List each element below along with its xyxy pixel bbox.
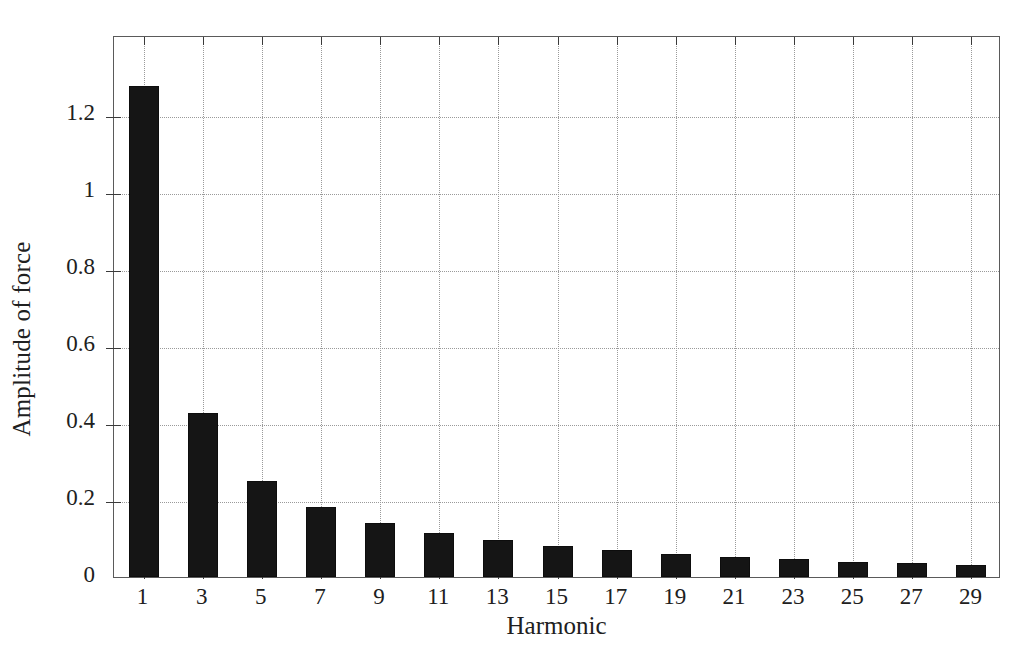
x-tick-label: 19 bbox=[663, 584, 686, 610]
bar bbox=[779, 559, 809, 577]
bar-layer bbox=[114, 37, 999, 577]
bar bbox=[543, 546, 573, 577]
x-tick-label: 1 bbox=[137, 584, 149, 610]
x-tick-label: 3 bbox=[196, 584, 208, 610]
x-tick-label: 23 bbox=[782, 584, 805, 610]
y-tick-mark bbox=[106, 117, 114, 118]
x-tick-label: 17 bbox=[604, 584, 627, 610]
y-axis-title-text: Amplitude of force bbox=[8, 241, 36, 436]
bar bbox=[365, 523, 395, 577]
bar bbox=[838, 562, 868, 577]
y-tick-label: 0.4 bbox=[0, 408, 95, 434]
plot-area bbox=[113, 36, 1000, 578]
bar bbox=[247, 481, 277, 577]
y-tick-mark bbox=[106, 348, 114, 349]
bar bbox=[306, 507, 336, 577]
x-axis-title: Harmonic bbox=[113, 612, 1000, 640]
y-tick-mark bbox=[106, 502, 114, 503]
x-tick-label: 29 bbox=[959, 584, 982, 610]
y-tick-mark bbox=[106, 425, 114, 426]
x-axis-title-text: Harmonic bbox=[507, 612, 607, 639]
y-tick-label: 1.2 bbox=[0, 100, 95, 126]
y-tick-label: 0.6 bbox=[0, 331, 95, 357]
x-tick-label: 7 bbox=[314, 584, 326, 610]
x-tick-label: 15 bbox=[545, 584, 568, 610]
y-tick-mark bbox=[106, 271, 114, 272]
x-tick-label: 5 bbox=[255, 584, 267, 610]
y-tick-label: 1 bbox=[0, 177, 95, 203]
bar bbox=[483, 540, 513, 577]
x-tick-label: 13 bbox=[486, 584, 509, 610]
y-tick-mark bbox=[106, 194, 114, 195]
x-tick-label: 25 bbox=[841, 584, 864, 610]
y-tick-label: 0.2 bbox=[0, 485, 95, 511]
bar bbox=[129, 86, 159, 577]
y-axis-title: Amplitude of force bbox=[0, 0, 70, 658]
chart-figure: Amplitude of force 00.20.40.60.811.2 135… bbox=[0, 0, 1034, 658]
bar bbox=[602, 550, 632, 577]
x-tick-label: 11 bbox=[427, 584, 449, 610]
bar bbox=[897, 563, 927, 577]
bar bbox=[661, 554, 691, 577]
x-tick-label: 27 bbox=[900, 584, 923, 610]
bar bbox=[720, 557, 750, 577]
x-tick-label: 21 bbox=[722, 584, 745, 610]
bar bbox=[424, 533, 454, 577]
bar bbox=[956, 565, 986, 577]
y-tick-label: 0.8 bbox=[0, 254, 95, 280]
x-tick-label: 9 bbox=[373, 584, 385, 610]
bar bbox=[188, 413, 218, 577]
y-tick-label: 0 bbox=[0, 562, 95, 588]
